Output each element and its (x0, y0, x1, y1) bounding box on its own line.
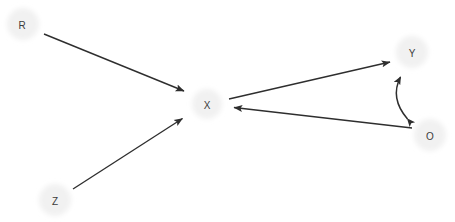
edge-x-to-y (229, 62, 390, 99)
node-label-z: Z (52, 196, 58, 207)
edge-y-to-o-bidirectional (396, 77, 407, 119)
node-label-r: R (18, 20, 25, 31)
edge-o-to-x (234, 108, 412, 129)
node-halo-group (7, 8, 446, 216)
graph-svg: R Z X Y O (0, 0, 455, 222)
node-label-x: X (204, 100, 211, 111)
node-label-y: Y (409, 48, 416, 59)
edge-z-to-x (73, 119, 183, 190)
node-label-o: O (426, 131, 434, 142)
edge-r-to-x (44, 34, 184, 91)
diagram-canvas: R Z X Y O (0, 0, 455, 222)
node-label-group: R Z X Y O (18, 20, 434, 207)
edge-group (44, 34, 412, 189)
